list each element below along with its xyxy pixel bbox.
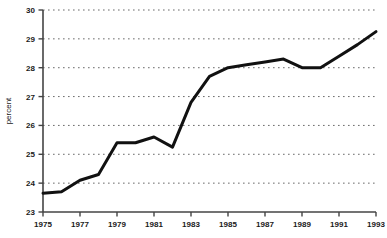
- y-tick-label-30: 30: [26, 6, 35, 15]
- y-tick-label-29: 29: [26, 35, 35, 44]
- x-tick-label-1983: 1983: [182, 220, 200, 229]
- x-tick-label-1975: 1975: [34, 220, 52, 229]
- gridlines-group: [43, 10, 376, 183]
- x-tick-label-1991: 1991: [330, 220, 348, 229]
- y-tick-label-25: 25: [26, 150, 35, 159]
- x-tick-label-1979: 1979: [108, 220, 126, 229]
- y-tick-labels-group: 2324252627282930: [26, 6, 35, 217]
- y-axis: [39, 10, 44, 212]
- y-tick-label-24: 24: [26, 179, 35, 188]
- y-axis-title-group: percent: [4, 97, 13, 124]
- y-axis-title: percent: [4, 97, 13, 124]
- y-tick-label-27: 27: [26, 93, 35, 102]
- chart-canvas: 2324252627282930 19751977197919811983198…: [0, 0, 387, 238]
- x-tick-label-1985: 1985: [219, 220, 237, 229]
- x-tick-label-1989: 1989: [293, 220, 311, 229]
- x-axis: [43, 212, 376, 217]
- x-tick-labels-group: 1975197719791981198319851987198919911993: [34, 220, 385, 229]
- x-tick-label-1993: 1993: [367, 220, 385, 229]
- y-tick-label-28: 28: [26, 64, 35, 73]
- data-series-group: [43, 32, 376, 194]
- data-line-percent: [43, 32, 376, 194]
- x-tick-label-1977: 1977: [71, 220, 89, 229]
- x-tick-label-1981: 1981: [145, 220, 163, 229]
- y-tick-label-26: 26: [26, 121, 35, 130]
- line-chart-figure: 2324252627282930 19751977197919811983198…: [0, 0, 387, 238]
- x-tick-label-1987: 1987: [256, 220, 274, 229]
- y-tick-label-23: 23: [26, 208, 35, 217]
